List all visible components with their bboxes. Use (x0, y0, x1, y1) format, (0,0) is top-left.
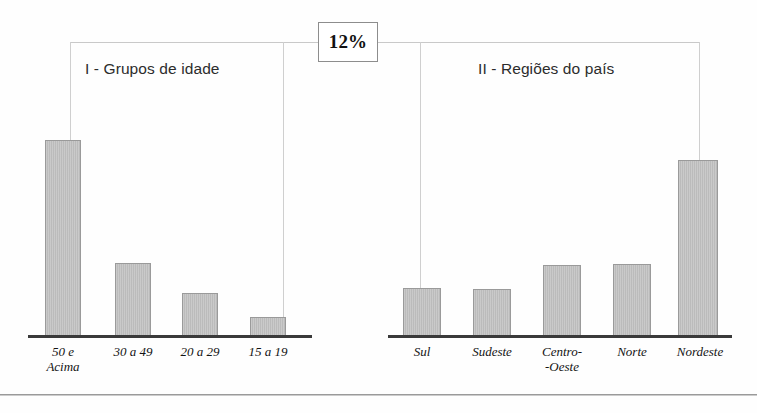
bar-centro-oeste (543, 265, 581, 335)
bar-sul (403, 288, 441, 335)
bar-20-a-29 (182, 293, 218, 335)
tick-label-sudeste: Sudeste (458, 344, 526, 359)
percentage-badge: 12% (318, 22, 378, 62)
bar-norte (613, 264, 651, 335)
bar-50-e-acima (45, 140, 81, 335)
panel-title-regioes-do-pais: II - Regiões do país (478, 60, 614, 78)
bar-30-a-49 (115, 263, 151, 335)
tick-label-50-e-acima: 50 e Acima (33, 344, 93, 374)
bottom-divider-rule (0, 394, 757, 396)
tick-label-sul: Sul (392, 344, 452, 359)
panel-grupos-de-idade: I - Grupos de idade 50 e Acima 30 a 49 2… (0, 0, 330, 413)
tick-label-norte: Norte (600, 344, 664, 359)
panel-regioes-do-pais: II - Regiões do país Sul Sudeste Centro-… (330, 0, 757, 413)
bar-sudeste (473, 289, 511, 335)
figure-root: 12% I - Grupos de idade 50 e Acima 30 a … (0, 0, 757, 413)
percentage-badge-value: 12% (329, 31, 368, 53)
bar-nordeste (678, 160, 718, 335)
tick-label-20-a-29: 20 a 29 (170, 344, 230, 359)
tick-label-30-a-49: 30 a 49 (103, 344, 163, 359)
tick-label-15-a-19: 15 a 19 (238, 344, 298, 359)
panel-title-grupos-de-idade: I - Grupos de idade (85, 60, 220, 78)
bar-15-a-19 (250, 317, 286, 335)
tick-label-nordeste: Nordeste (664, 344, 736, 359)
axis-baseline-right (388, 335, 732, 338)
tick-label-centro-oeste: Centro- -Oeste (528, 344, 596, 374)
axis-baseline-left (28, 335, 312, 338)
